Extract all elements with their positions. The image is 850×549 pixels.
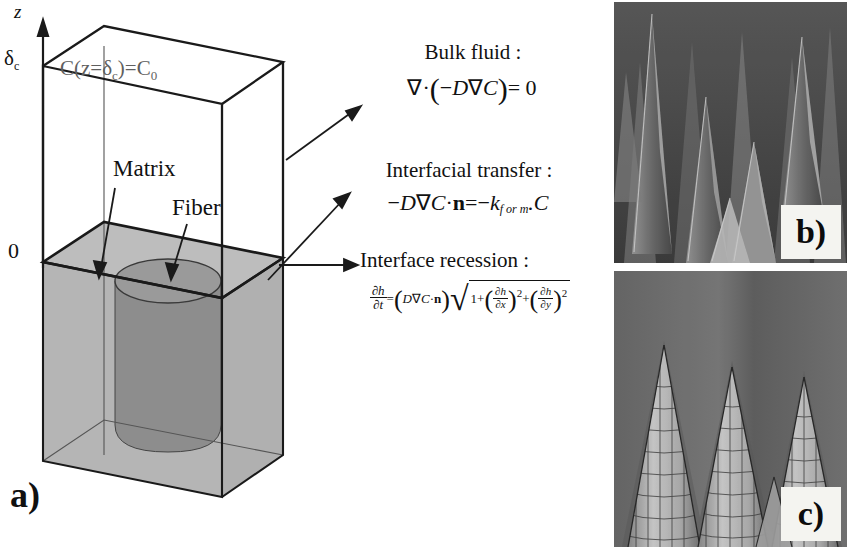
delta-subscript: c (14, 59, 19, 73)
minus-sign: − (440, 75, 452, 100)
axis-tick-delta-c: δc (4, 48, 19, 72)
panel-b-sem-micrograph: b) (614, 2, 847, 263)
z-axis (38, 20, 48, 268)
k-subscript: f or m (500, 202, 529, 216)
minus-sign: − (387, 190, 399, 215)
dh-dx-denominator: ∂x (493, 299, 508, 311)
equation-block: Bulk fluid : ∇·(−D∇C)= 0 Interfacial tra… (318, 40, 610, 360)
paren-close: ) (441, 285, 450, 314)
interface-recession-equation: ∂h ∂t =(D∇C·n)√1+( ∂h ∂x )2+( ∂h ∂y )2 (330, 280, 610, 318)
one-plus: 1+ (471, 291, 485, 306)
dh-dt-numerator: ∂h (370, 284, 387, 299)
concentration-C: C (431, 190, 446, 215)
minus-sign: − (477, 190, 489, 215)
dh-dt-denominator: ∂t (370, 298, 387, 312)
z-axis-label: z (14, 2, 21, 21)
diffusivity-D: D (452, 75, 468, 100)
plus-sign: + (522, 291, 529, 306)
dh-dy-fraction: ∂h ∂y (538, 286, 553, 310)
panel-a-tag: a) (10, 477, 40, 513)
nabla-icon: ∇ (412, 291, 421, 306)
panel-c-simulation: c) (614, 271, 847, 547)
normal-vector-n: n (453, 190, 465, 215)
rate-constant-k: k (490, 190, 500, 215)
nabla-icon: ∇ (468, 75, 483, 100)
radical-icon: √ (450, 280, 469, 317)
fiber-label: Fiber (172, 196, 221, 219)
bulk-fluid-heading: Bulk fluid : (348, 40, 598, 65)
paren-close: ) (553, 285, 562, 314)
equals-zero: = 0 (508, 75, 537, 100)
figure-root: z δc 0 C(z=δc)=C0 Matrix Fiber a) Bulk f… (0, 0, 850, 549)
interfacial-transfer-equation: −D∇C·n=−kf or m.C (326, 190, 610, 217)
panel-a-schematic: z δc 0 C(z=δc)=C0 Matrix Fiber a) Bulk f… (0, 0, 610, 549)
paren-close: ) (508, 285, 517, 314)
top-boundary-condition-label: C(z=δc)=C0 (60, 58, 157, 82)
paren-open: ( (394, 285, 403, 314)
nabla-icon: ∇ (407, 75, 422, 100)
concentration-C: C (483, 75, 498, 100)
equals-sign: = (387, 291, 394, 306)
dh-dt-fraction: ∂h ∂t (370, 284, 387, 312)
interface-recession-heading: Interface recession : (360, 248, 610, 273)
diffusivity-D: D (400, 190, 416, 215)
panel-c-tag: c) (781, 487, 841, 541)
paren-open: ( (484, 285, 493, 314)
interfacial-transfer-heading: Interfacial transfer : (334, 158, 604, 183)
fiber-cylinder-body (115, 281, 221, 452)
concentration-C: C (421, 291, 430, 306)
bc-sub2: 0 (151, 68, 158, 83)
paren-open: ( (530, 285, 539, 314)
matrix-label: Matrix (113, 157, 176, 180)
bc-part2: )=C (118, 56, 151, 80)
nabla-icon: ∇ (416, 190, 431, 215)
diffusivity-D: D (403, 291, 412, 306)
dh-dx-fraction: ∂h ∂x (493, 286, 508, 310)
panel-b-tag: b) (781, 205, 841, 259)
bulk-fluid-equation: ∇·(−D∇C)= 0 (342, 72, 602, 106)
equals-sign: = (465, 190, 477, 215)
dot-operator: · (422, 75, 429, 100)
bc-part1: C(z=δ (60, 56, 112, 80)
paren-close: ) (498, 72, 508, 105)
dh-dy-denominator: ∂y (538, 299, 553, 311)
dot-C: .C (528, 190, 548, 215)
paren-open: ( (430, 72, 440, 105)
delta-symbol: δ (4, 46, 14, 70)
dot-operator: · (445, 190, 452, 215)
axis-tick-zero: 0 (8, 240, 19, 262)
exponent-two: 2 (562, 287, 568, 299)
radicand: 1+( ∂h ∂x )2+( ∂h ∂y )2 (469, 280, 571, 315)
